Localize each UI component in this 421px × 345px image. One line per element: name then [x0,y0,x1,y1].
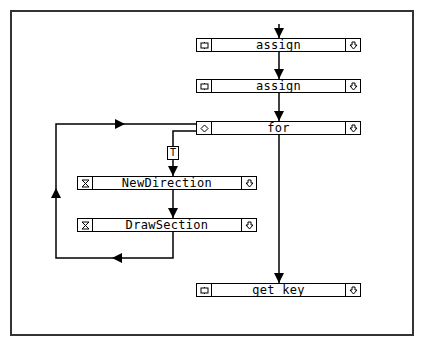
node-label: for [212,122,345,134]
node-assign-2[interactable]: assign [196,79,361,93]
arrowhead-into-newdirection [168,166,178,176]
arrowhead-into-assign2 [274,69,284,79]
arrowhead-loop-left [112,253,122,263]
hourglass-icon[interactable] [78,177,93,189]
expand-down-icon[interactable] [345,80,360,92]
loop-diamond-icon[interactable] [197,122,212,134]
arrowhead-loop-right [115,119,125,129]
node-for-loop[interactable]: for [196,121,361,135]
statement-icon[interactable] [197,80,212,92]
hourglass-icon[interactable] [78,219,93,231]
arrowhead-into-drawsection [168,208,178,218]
node-label: NewDirection [93,177,241,189]
node-label: DrawSection [93,219,241,231]
expand-down-icon[interactable] [241,219,256,231]
statement-icon[interactable] [197,284,212,296]
expand-down-icon[interactable] [345,122,360,134]
node-assign-1[interactable]: assign [196,38,361,52]
arrowhead-into-getkey [274,273,284,283]
arrowhead-into-for [274,111,284,121]
arrowhead-into-assign1 [274,28,284,38]
node-label: get key [212,284,345,296]
statement-icon[interactable] [197,39,212,51]
node-newdirection[interactable]: NewDirection [77,176,257,190]
node-drawsection[interactable]: DrawSection [77,218,257,232]
node-label: assign [212,80,345,92]
true-branch-badge: T [167,146,179,160]
expand-down-icon[interactable] [345,39,360,51]
expand-down-icon[interactable] [345,284,360,296]
node-get-key[interactable]: get key [196,283,361,297]
edge-loop-back [56,124,196,258]
expand-down-icon[interactable] [241,177,256,189]
arrowhead-loop-up [51,188,61,198]
node-label: assign [212,39,345,51]
